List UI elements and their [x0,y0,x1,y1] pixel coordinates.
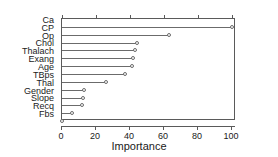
x-axis-tick [163,126,164,130]
importance-lollipop-chart: CaCPOpCholThalachExangAgeTBpsThalGenderS… [0,0,278,157]
x-axis-tick [197,126,198,130]
lollipop-marker [167,33,171,37]
lollipop-stem [62,27,232,28]
lollipop-stem [62,74,125,75]
x-axis-tick [95,126,96,130]
lollipop-marker [133,48,137,52]
lollipop-marker [81,96,85,100]
lollipop-marker [135,41,139,45]
x-axis-tick [231,126,232,130]
data-rows [62,19,234,119]
lollipop-stem [62,50,135,51]
lollipop-marker [80,103,84,107]
lollipop-stem [62,66,132,67]
x-axis-top-tick [96,15,97,19]
lollipop-stem [62,82,106,83]
lollipop-marker [82,88,86,92]
x-axis-top-tick [62,15,63,19]
x-axis-top-tick [130,15,131,19]
x-axis-tick [61,126,62,130]
plot-area [61,18,235,120]
lollipop-marker [70,111,74,115]
lollipop-stem [62,98,83,99]
lollipop-stem [62,43,137,44]
lollipop-stem [62,90,84,91]
x-axis-title: Importance [0,140,278,152]
lollipop-stem [62,35,169,36]
lollipop-marker [104,80,108,84]
y-axis-labels: CaCPOpCholThalachExangAgeTBpsThalGenderS… [0,18,58,120]
lollipop-stem [62,58,133,59]
x-axis-top-tick [198,15,199,19]
x-axis-top-tick [232,15,233,19]
lollipop-marker [60,119,64,123]
y-axis-tick-label: Fbs [39,110,54,119]
lollipop-marker [123,72,127,76]
x-axis-top-tick [164,15,165,19]
lollipop-marker [131,56,135,60]
lollipop-marker [130,64,134,68]
x-axis: 020406080100 [61,126,235,127]
x-axis-tick [129,126,130,130]
lollipop-stem [62,105,82,106]
lollipop-marker [230,25,234,29]
